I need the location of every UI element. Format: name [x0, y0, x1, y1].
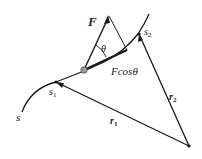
origin-point: [187, 144, 190, 147]
r2-label: r2: [169, 91, 177, 104]
particle: [81, 67, 87, 73]
projection-label: Fcosθ: [110, 65, 138, 77]
perpendicular-line: [109, 16, 127, 50]
s2-label: s2: [144, 26, 152, 39]
trajectory-curve: [22, 14, 149, 112]
path-label: s: [16, 111, 20, 123]
force-label: F: [87, 14, 97, 29]
s1-label: s1: [49, 86, 57, 99]
angle-label: θ: [101, 43, 106, 54]
r1-label: r1: [110, 115, 118, 128]
position-vector-r2: [139, 34, 189, 146]
point-s1: [54, 80, 57, 83]
work-diagram: F θ Fcosθ s s1 s2 r1 r2: [0, 0, 202, 159]
point-s2: [137, 32, 140, 35]
